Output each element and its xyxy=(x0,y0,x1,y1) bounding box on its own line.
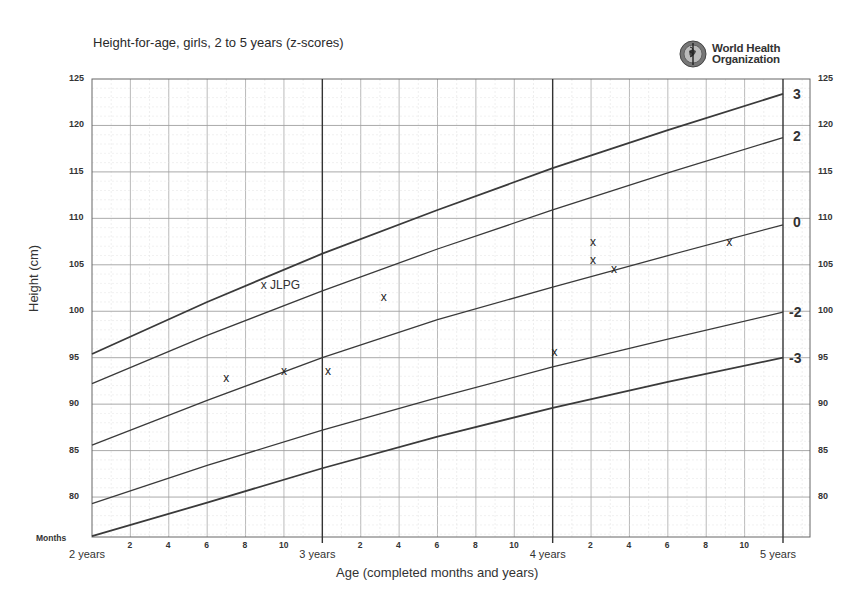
y-tick-left: 85 xyxy=(69,445,79,455)
y-tick-right: 80 xyxy=(818,491,828,501)
z-score-label-2: 2 xyxy=(793,128,801,144)
x-month-tick: 2 xyxy=(358,540,363,550)
data-point-marker: x xyxy=(590,253,596,267)
y-tick-left: 120 xyxy=(69,119,84,129)
y-tick-left: 105 xyxy=(69,259,84,269)
x-month-tick: 10 xyxy=(509,540,518,550)
y-tick-right: 125 xyxy=(818,73,833,83)
x-month-tick: 8 xyxy=(473,540,478,550)
data-point-marker: x xyxy=(223,371,229,385)
y-tick-right: 95 xyxy=(818,352,828,362)
x-month-tick: 8 xyxy=(243,540,248,550)
x-month-tick: 6 xyxy=(435,540,440,550)
y-axis-label: Height (cm) xyxy=(26,245,41,312)
y-tick-left: 125 xyxy=(69,73,84,83)
y-tick-left: 80 xyxy=(69,491,79,501)
y-tick-left: 100 xyxy=(69,305,84,315)
y-tick-left: 95 xyxy=(69,352,79,362)
y-tick-right: 120 xyxy=(818,119,833,129)
y-tick-left: 90 xyxy=(69,398,79,408)
data-point-marker: x xyxy=(726,235,732,249)
x-month-tick: 2 xyxy=(588,540,593,550)
months-label: Months xyxy=(36,533,66,543)
data-point-marker: x xyxy=(590,235,596,249)
z-score-label-0: 0 xyxy=(793,214,801,230)
y-tick-right: 90 xyxy=(818,398,828,408)
z-score-label--3: -3 xyxy=(789,350,801,366)
x-month-tick: 8 xyxy=(703,540,708,550)
x-year-label: 2 years xyxy=(69,548,105,560)
x-year-label: 4 years xyxy=(530,548,566,560)
x-year-label: 3 years xyxy=(299,548,335,560)
y-tick-right: 110 xyxy=(818,212,833,222)
data-point-marker: x xyxy=(611,262,617,276)
x-month-tick: 4 xyxy=(626,540,631,550)
x-month-tick: 10 xyxy=(740,540,749,550)
measurement-points: xxxxxxxxx xyxy=(223,235,732,386)
x-month-tick: 2 xyxy=(127,540,132,550)
y-tick-right: 100 xyxy=(818,305,833,315)
jlpg-annotation: x JLPG xyxy=(261,278,300,292)
chart-plot-area: xxxxxxxxx xyxy=(0,0,866,602)
y-tick-right: 105 xyxy=(818,259,833,269)
z-score-label-3: 3 xyxy=(793,86,801,102)
x-month-tick: 10 xyxy=(279,540,288,550)
y-tick-right: 115 xyxy=(818,166,833,176)
x-year-label: 5 years xyxy=(760,548,796,560)
x-month-tick: 6 xyxy=(665,540,670,550)
data-point-marker: x xyxy=(552,345,558,359)
y-tick-right: 85 xyxy=(818,445,828,455)
y-tick-left: 115 xyxy=(69,166,84,176)
x-month-tick: 6 xyxy=(204,540,209,550)
x-axis-label: Age (completed months and years) xyxy=(336,565,538,580)
y-tick-left: 110 xyxy=(69,212,84,222)
z-score-label--2: -2 xyxy=(789,304,801,320)
x-month-tick: 4 xyxy=(166,540,171,550)
x-month-tick: 4 xyxy=(396,540,401,550)
data-point-marker: x xyxy=(281,364,287,378)
data-point-marker: x xyxy=(325,364,331,378)
data-point-marker: x xyxy=(381,290,387,304)
